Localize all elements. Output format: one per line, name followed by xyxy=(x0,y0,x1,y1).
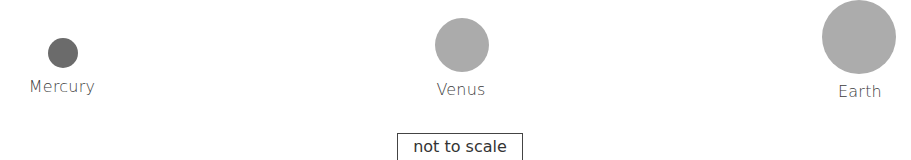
mercury-circle xyxy=(48,38,78,68)
earth-label: Earth xyxy=(838,84,882,100)
venus-circle xyxy=(435,18,489,72)
mercury-label: Mercury xyxy=(29,79,95,95)
earth-circle xyxy=(822,0,896,74)
venus-label: Venus xyxy=(436,82,485,98)
not-to-scale-note: not to scale xyxy=(397,133,523,160)
